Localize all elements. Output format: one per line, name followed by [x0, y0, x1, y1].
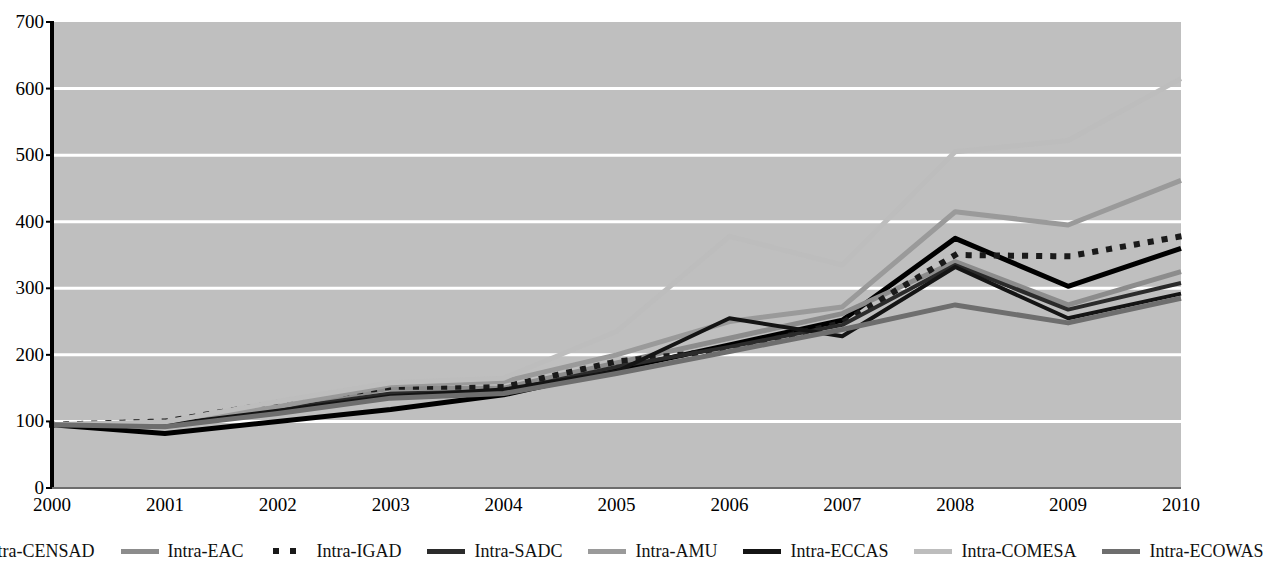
legend-label: Intra-IGAD	[317, 542, 402, 560]
y-tick-label: 100	[0, 411, 44, 430]
legend-item[interactable]: Intra-EAC	[121, 542, 244, 560]
y-tick-label: 300	[0, 278, 44, 297]
legend-item[interactable]: Intra-AMU	[588, 542, 717, 560]
legend-swatch-icon	[121, 549, 159, 554]
legend-swatch-icon	[743, 549, 781, 554]
legend-item[interactable]: Intra-ECOWAS	[1102, 542, 1263, 560]
x-tick-label: 2010	[1141, 495, 1221, 514]
plot-area: 0100200300400500600700 20002001200220032…	[0, 0, 1199, 500]
legend-item[interactable]: Intra-ECCAS	[743, 542, 888, 560]
legend-swatch-icon	[588, 549, 626, 554]
x-tick-label: 2001	[125, 495, 205, 514]
legend-item[interactable]: Intra-COMESA	[914, 542, 1076, 560]
chart-legend: Intra-CENSADIntra-EACIntra-IGADIntra-SAD…	[0, 536, 1199, 566]
legend-label: Intra-EAC	[168, 542, 244, 560]
legend-label: Intra-ECOWAS	[1149, 542, 1263, 560]
x-tick-label: 2007	[802, 495, 882, 514]
legend-label: Intra-SADC	[474, 542, 562, 560]
legend-swatch-icon	[427, 549, 465, 554]
legend-label: Intra-ECCAS	[790, 542, 888, 560]
x-tick-label: 2000	[12, 495, 92, 514]
legend-item[interactable]: Intra-CENSAD	[0, 542, 95, 560]
x-tick-label: 2002	[238, 495, 318, 514]
x-tick-label: 2003	[351, 495, 431, 514]
y-tick-label: 500	[0, 145, 44, 164]
legend-label: Intra-CENSAD	[0, 542, 95, 560]
legend-swatch-icon	[1102, 549, 1140, 554]
x-tick-label: 2008	[915, 495, 995, 514]
y-tick-label: 400	[0, 212, 44, 231]
line-chart-svg	[0, 0, 1199, 500]
x-tick-label: 2005	[577, 495, 657, 514]
y-tick-label: 200	[0, 345, 44, 364]
legend-item[interactable]: Intra-IGAD	[270, 542, 402, 560]
x-tick-label: 2004	[464, 495, 544, 514]
y-tick-label: 600	[0, 79, 44, 98]
legend-label: Intra-AMU	[635, 542, 717, 560]
y-tick-label: 700	[0, 12, 44, 31]
legend-swatch-icon	[270, 548, 308, 554]
x-tick-label: 2009	[1028, 495, 1108, 514]
x-tick-label: 2006	[689, 495, 769, 514]
legend-label: Intra-COMESA	[961, 542, 1076, 560]
legend-swatch-icon	[914, 549, 952, 554]
legend-item[interactable]: Intra-SADC	[427, 542, 562, 560]
